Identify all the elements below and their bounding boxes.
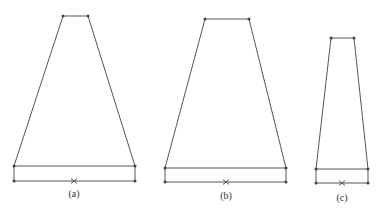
vertex-point xyxy=(134,165,137,168)
vertex-point xyxy=(330,37,333,40)
vertex-point xyxy=(285,181,288,184)
diagram-canvas: (a) (b) (c) xyxy=(0,0,382,219)
vertex-point xyxy=(315,168,318,171)
left-edge xyxy=(14,16,63,166)
figure-label-c: (c) xyxy=(336,192,347,203)
vertex-point xyxy=(367,168,370,171)
vertex-point xyxy=(134,180,137,183)
vertex-point xyxy=(62,15,65,18)
right-edge xyxy=(249,19,286,168)
figure-label-a: (a) xyxy=(68,188,79,199)
vertex-point xyxy=(164,167,167,170)
vertex-point xyxy=(13,180,16,183)
vertex-point xyxy=(353,37,356,40)
vertex-point xyxy=(367,182,370,185)
vertex-point xyxy=(87,15,90,18)
figure-label-b: (b) xyxy=(220,190,232,201)
left-edge xyxy=(165,19,205,168)
vertex-point xyxy=(13,165,16,168)
vertex-point xyxy=(204,18,207,21)
vertex-point xyxy=(248,18,251,21)
vertex-point xyxy=(164,181,167,184)
left-edge xyxy=(316,38,331,169)
right-edge xyxy=(354,38,368,169)
vertex-point xyxy=(315,182,318,185)
trapezoid-figures xyxy=(0,0,382,219)
right-edge xyxy=(88,16,135,166)
vertex-point xyxy=(285,167,288,170)
